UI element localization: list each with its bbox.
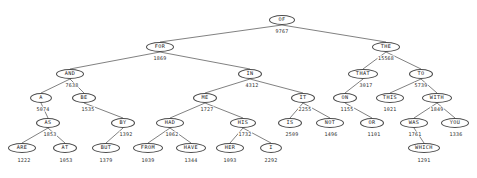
tree-node-you[interactable]: YOU xyxy=(441,118,469,128)
tree-node-by[interactable]: BY xyxy=(111,118,135,128)
tree-node-value-this: 1021 xyxy=(383,107,397,112)
tree-node-label: IS xyxy=(286,120,293,125)
tree-node-value-for: 1869 xyxy=(153,56,167,61)
tree-node-label: ON xyxy=(341,95,348,100)
tree-node-as[interactable]: AS xyxy=(36,118,60,128)
tree-node-label: NOT xyxy=(325,120,336,125)
tree-node-label: HAVE xyxy=(184,145,198,150)
tree-node-value-of: 9767 xyxy=(275,29,289,34)
tree-node-value-it: 2255 xyxy=(298,107,312,112)
tree-node-was[interactable]: WAS xyxy=(400,118,428,128)
tree-node-value-had: 1062 xyxy=(165,132,179,137)
tree-node-in[interactable]: IN xyxy=(238,69,262,79)
tree-node-is[interactable]: IS xyxy=(278,118,302,128)
tree-node-be[interactable]: BE xyxy=(72,93,96,103)
tree-node-it[interactable]: IT xyxy=(291,93,315,103)
tree-node-label: ME xyxy=(201,95,208,100)
tree-node-label: HIS xyxy=(238,120,249,125)
tree-node-label: WITH xyxy=(430,95,444,100)
tree-node-label: IT xyxy=(299,95,306,100)
tree-node-that[interactable]: THAT xyxy=(348,69,378,79)
tree-node-value-but: 1379 xyxy=(99,158,113,163)
tree-edge xyxy=(205,79,250,93)
tree-node-label: THIS xyxy=(383,95,397,100)
tree-node-value-are: 1222 xyxy=(17,158,31,163)
tree-node-value-her: 1093 xyxy=(223,158,237,163)
tree-edge xyxy=(282,25,386,42)
tree-node-a[interactable]: A xyxy=(30,93,52,103)
tree-node-label: HER xyxy=(225,145,236,150)
tree-node-label: AS xyxy=(44,120,51,125)
tree-node-label: I xyxy=(269,145,273,150)
tree-node-and[interactable]: AND xyxy=(56,69,84,79)
tree-node-label: OF xyxy=(278,17,285,22)
tree-node-for[interactable]: FOR xyxy=(146,42,174,52)
tree-node-had[interactable]: HAD xyxy=(156,118,184,128)
tree-node-label: AND xyxy=(65,71,76,76)
tree-node-value-a: 5074 xyxy=(36,107,50,112)
tree-node-label: WAS xyxy=(409,120,420,125)
tree-node-value-with: 1849 xyxy=(430,107,444,112)
tree-node-label: BUT xyxy=(101,145,112,150)
tree-node-are[interactable]: ARE xyxy=(8,143,36,153)
tree-node-value-to: 5739 xyxy=(414,83,428,88)
tree-node-value-or: 1101 xyxy=(367,132,381,137)
tree-edge xyxy=(70,52,160,69)
tree-node-me[interactable]: ME xyxy=(193,93,217,103)
tree-node-his[interactable]: HIS xyxy=(230,118,256,128)
tree-node-value-be: 1535 xyxy=(81,107,95,112)
tree-node-from[interactable]: FROM xyxy=(133,143,163,153)
tree-node-value-that: 3017 xyxy=(359,83,373,88)
tree-node-value-me: 1727 xyxy=(200,107,214,112)
tree-node-value-by: 1392 xyxy=(119,132,133,137)
tree-node-label: IN xyxy=(246,71,253,76)
tree-node-value-in: 4312 xyxy=(245,83,259,88)
tree-node-label: THAT xyxy=(356,71,370,76)
tree-node-label: FROM xyxy=(141,145,155,150)
binary-tree-diagram: OF9767FOR1869THE15568AND7638IN4312THAT30… xyxy=(0,0,477,178)
tree-node-label: OR xyxy=(368,120,375,125)
tree-node-value-have: 1344 xyxy=(184,158,198,163)
tree-node-with[interactable]: WITH xyxy=(422,93,452,103)
tree-node-of[interactable]: OF xyxy=(269,15,295,25)
tree-node-which[interactable]: WHICH xyxy=(408,143,440,153)
tree-node-label: TO xyxy=(417,71,424,76)
tree-node-value-was: 1761 xyxy=(408,132,422,137)
tree-node-label: ARE xyxy=(17,145,28,150)
tree-node-not[interactable]: NOT xyxy=(316,118,344,128)
tree-node-label: THE xyxy=(381,44,392,49)
tree-node-or[interactable]: OR xyxy=(360,118,384,128)
tree-node-label: WHICH xyxy=(415,145,433,150)
tree-node-her[interactable]: HER xyxy=(216,143,244,153)
tree-node-value-from: 1039 xyxy=(141,158,155,163)
tree-node-to[interactable]: TO xyxy=(409,69,433,79)
tree-edge xyxy=(160,52,250,69)
tree-node-at[interactable]: AT xyxy=(53,143,77,153)
tree-node-value-at: 1053 xyxy=(59,158,73,163)
tree-node-value-i: 2292 xyxy=(264,158,278,163)
tree-node-but[interactable]: BUT xyxy=(92,143,120,153)
tree-node-the[interactable]: THE xyxy=(372,42,400,52)
tree-node-value-the: 15568 xyxy=(377,56,394,61)
tree-node-value-his: 1732 xyxy=(238,132,252,137)
tree-node-on[interactable]: ON xyxy=(333,93,357,103)
tree-node-label: AT xyxy=(61,145,68,150)
tree-node-value-you: 1336 xyxy=(449,132,463,137)
tree-node-label: HAD xyxy=(165,120,176,125)
tree-node-this[interactable]: THIS xyxy=(376,93,404,103)
tree-node-i[interactable]: I xyxy=(260,143,282,153)
tree-node-value-which: 1291 xyxy=(417,158,431,163)
tree-node-value-on: 1155 xyxy=(340,107,354,112)
tree-node-value-and: 7638 xyxy=(65,83,79,88)
tree-edge xyxy=(160,25,282,42)
tree-node-label: BY xyxy=(119,120,126,125)
tree-node-have[interactable]: HAVE xyxy=(176,143,206,153)
tree-node-value-as: 1853 xyxy=(43,132,57,137)
tree-node-label: FOR xyxy=(155,44,166,49)
tree-node-label: A xyxy=(39,95,43,100)
tree-node-label: BE xyxy=(80,95,87,100)
tree-node-value-is: 2509 xyxy=(285,132,299,137)
tree-node-label: YOU xyxy=(450,120,461,125)
tree-node-value-not: 1496 xyxy=(324,132,338,137)
